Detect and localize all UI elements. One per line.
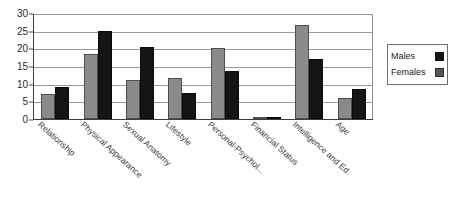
bar-males (140, 47, 154, 119)
legend-item-females[interactable]: Females (391, 64, 444, 80)
bar-males (55, 87, 69, 119)
x-axis-label: Lifestyle (164, 120, 193, 148)
bar-males (225, 71, 239, 119)
bar-males (182, 93, 196, 120)
bar-group (288, 14, 330, 119)
bar-group (34, 14, 76, 119)
y-tick-label-5: 5 (22, 97, 28, 107)
legend: MalesFemales (387, 44, 448, 85)
y-tick-label-25: 25 (17, 27, 28, 37)
y-tick-label-15: 15 (17, 62, 28, 72)
bar-males (352, 89, 366, 119)
bar-females (168, 78, 182, 119)
y-tick-label-20: 20 (17, 44, 28, 54)
black-square-swatch (435, 52, 444, 61)
bar-group (76, 14, 118, 119)
legend-label: Males (391, 51, 415, 61)
plot-area (33, 14, 373, 120)
x-axis-labels: RelationshipPhysical AppearanceSexual An… (33, 120, 373, 208)
y-tick-label-10: 10 (17, 80, 28, 90)
bar-males (267, 117, 281, 119)
bar-males (98, 31, 112, 119)
y-axis: 051015202530 (0, 14, 33, 120)
bar-females (295, 25, 309, 119)
bar-females (126, 80, 140, 119)
bar-females (338, 98, 352, 119)
gray-square-swatch (435, 68, 444, 77)
bar-females (41, 94, 55, 119)
x-axis-label: Relationship (36, 120, 77, 158)
bar-group (204, 14, 246, 119)
bar-group (119, 14, 161, 119)
bar-groups (34, 14, 373, 119)
legend-item-males[interactable]: Males (391, 48, 444, 64)
bar-females (84, 54, 98, 119)
bar-females (211, 48, 225, 119)
legend-label: Females (391, 67, 426, 77)
x-axis-label: Age (334, 120, 351, 137)
y-tick-label-0: 0 (22, 115, 28, 125)
bar-males (309, 59, 323, 119)
bar-group (246, 14, 288, 119)
bar-group (331, 14, 373, 119)
bar-chart: 051015202530 RelationshipPhysical Appear… (0, 0, 458, 208)
bar-group (161, 14, 203, 119)
y-tick-label-30: 30 (17, 9, 28, 19)
